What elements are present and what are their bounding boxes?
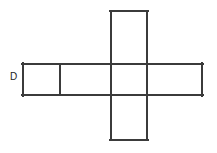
net-faces — [22, 10, 203, 141]
face-left-small — [22, 63, 60, 96]
face-top — [110, 10, 148, 63]
face-center — [110, 63, 148, 96]
face-right — [148, 63, 203, 96]
net-diagram-svg — [0, 0, 217, 153]
face-bottom — [110, 96, 148, 141]
label-d: D — [10, 72, 17, 82]
face-left-wide — [60, 63, 110, 96]
net-diagram-figure: D — [0, 0, 217, 153]
